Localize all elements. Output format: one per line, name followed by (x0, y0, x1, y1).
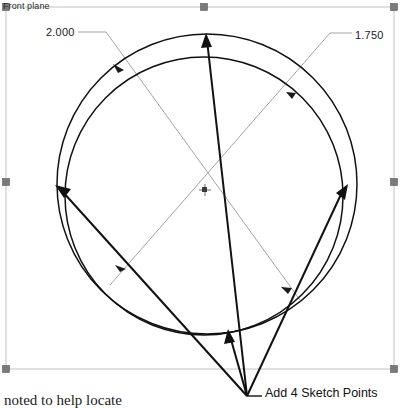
cad-sketch-canvas[interactable]: Front plane 2.000 1.750 Add 4 Sketch Poi… (0, 0, 402, 408)
arrow-line-left[interactable] (62, 191, 247, 396)
sketch-point-arrows[interactable] (55, 33, 348, 396)
frame-handle-middle-right[interactable] (391, 179, 398, 186)
arrow-line-right[interactable] (247, 190, 343, 396)
outer-circle[interactable] (57, 34, 357, 334)
note-add-sketch-points: Add 4 Sketch Points (265, 386, 378, 400)
frame-handle-middle-left[interactable] (3, 179, 10, 186)
frame-handle-top-right[interactable] (391, 4, 398, 11)
inner-circle[interactable] (65, 57, 343, 335)
plane-label: Front plane (3, 1, 50, 11)
leader-2000-arrowhead-far (281, 287, 292, 294)
center-point-marker[interactable] (199, 184, 211, 196)
note-help-locate: noted to help locate (4, 392, 122, 408)
frame-handle-bottom-left[interactable] (3, 366, 10, 373)
dimension-label-2000[interactable]: 2.000 (46, 26, 75, 38)
leader-1750-arrowhead-far (115, 265, 126, 272)
dimension-label-1750[interactable]: 1.750 (355, 29, 384, 41)
sketch-circles[interactable] (57, 34, 357, 335)
leader-1750-arrowhead (286, 92, 296, 99)
center-marker-square[interactable] (202, 187, 207, 192)
arrow-head-top (201, 33, 212, 48)
leader-2000-line[interactable] (106, 32, 300, 300)
frame-handle-bottom-right[interactable] (391, 366, 398, 373)
frame-handle-top-center[interactable] (201, 4, 208, 11)
sketch-drawing[interactable] (0, 0, 402, 408)
